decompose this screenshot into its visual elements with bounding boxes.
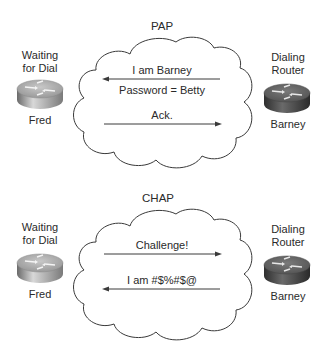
pap-panel: PAP Waiting for Dial Fred Dia [0, 0, 325, 175]
left-node-role-line2: for Dial [14, 234, 66, 247]
left-node-name: Fred [14, 114, 66, 127]
right-node-name: Barney [262, 290, 314, 303]
network-cloud-icon [68, 32, 258, 172]
left-node-role-line2: for Dial [14, 62, 66, 75]
arrow-left-icon [100, 285, 224, 293]
left-node-role-line1: Waiting [14, 49, 66, 62]
message-label: Password = Betty [92, 84, 232, 96]
router-icon [262, 82, 312, 116]
arrow-left-icon [100, 75, 224, 83]
right-node-role-line1: Dialing [262, 223, 314, 236]
arrow-right-icon [100, 250, 224, 258]
pap-title: PAP [132, 20, 192, 32]
right-node-role-line2: Router [262, 64, 314, 77]
left-node-name: Fred [14, 288, 66, 301]
chap-title: CHAP [128, 192, 188, 204]
router-icon [262, 254, 312, 288]
arrow-right-icon [100, 120, 224, 128]
chap-panel: CHAP Waiting for Dial Fred Diali [0, 172, 325, 347]
router-icon [15, 252, 65, 286]
right-node-role-line2: Router [262, 236, 314, 249]
router-icon [15, 78, 65, 112]
left-node-role-line1: Waiting [14, 221, 66, 234]
right-node-name: Barney [262, 118, 314, 131]
right-node-role-line1: Dialing [262, 51, 314, 64]
